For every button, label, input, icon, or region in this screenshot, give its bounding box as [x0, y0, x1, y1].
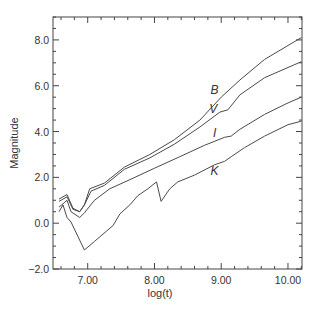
series-lines	[59, 38, 301, 250]
y-tick-label: 0.0	[34, 217, 49, 229]
series-line-i	[59, 97, 301, 217]
x-tick-label: 9.00	[211, 274, 232, 286]
series-labels: BVIK	[209, 83, 219, 178]
magnitude-vs-logt-chart: 7.008.009.0010.00 −2.00.02.04.06.08.0 BV…	[0, 0, 317, 313]
x-tick-label: 7.00	[77, 274, 98, 286]
series-line-b	[59, 38, 301, 212]
y-tick-label: 2.0	[34, 171, 49, 183]
series-label-b: B	[211, 83, 219, 97]
x-tick-label: 8.00	[144, 274, 165, 286]
y-tick-label: 6.0	[34, 80, 49, 92]
series-label-v: V	[209, 102, 218, 116]
y-tick-label: −2.0	[28, 263, 49, 275]
y-tick-labels: −2.00.02.04.06.08.0	[28, 34, 49, 275]
y-axis-title: Magnitude	[8, 117, 20, 168]
x-tick-label: 10.00	[275, 274, 301, 286]
x-axis-title: log(t)	[147, 287, 172, 299]
y-tick-label: 8.0	[34, 34, 49, 46]
series-label-k: K	[211, 164, 220, 178]
x-tick-labels: 7.008.009.0010.00	[77, 274, 301, 286]
plot-frame	[53, 17, 302, 269]
y-tick-label: 4.0	[34, 126, 49, 138]
series-label-i: I	[213, 126, 217, 140]
axis-ticks	[53, 17, 302, 269]
series-line-v	[59, 62, 301, 212]
